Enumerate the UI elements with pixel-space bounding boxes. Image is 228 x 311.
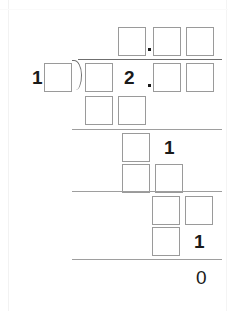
quotient-box-3[interactable] <box>186 27 214 56</box>
quotient-box-1[interactable] <box>118 27 146 56</box>
work-row-4-box-2[interactable] <box>185 196 213 225</box>
dividend-box-1[interactable] <box>85 63 113 92</box>
page-edge-left <box>8 0 9 311</box>
work-row-4-box-1[interactable] <box>152 196 180 225</box>
work-row-5-box-1[interactable] <box>152 227 180 256</box>
work-row-5-digit: 1 <box>194 232 205 251</box>
worksheet-page: 1 2 1 1 0 <box>0 0 228 311</box>
work-row-3-box-1[interactable] <box>122 164 150 193</box>
work-row-3-box-2[interactable] <box>155 164 183 193</box>
page-edge-top <box>0 9 228 10</box>
subtraction-rule-2 <box>72 191 222 192</box>
subtraction-rule-1 <box>72 129 222 130</box>
dividend-decimal-point <box>148 84 151 87</box>
divisor-digit: 1 <box>32 68 43 87</box>
division-bracket-curve <box>72 60 82 90</box>
dividend-box-3[interactable] <box>186 63 214 92</box>
work-row-2-box-1[interactable] <box>122 133 150 162</box>
dividend-box-2[interactable] <box>153 63 181 92</box>
final-remainder-digit: 0 <box>196 268 207 287</box>
page-edge-right <box>226 0 227 311</box>
work-row-2-digit: 1 <box>164 138 175 157</box>
divisor-box[interactable] <box>44 63 72 92</box>
division-vinculum <box>78 59 222 60</box>
work-row-1-box-2[interactable] <box>118 96 146 125</box>
quotient-decimal-point <box>148 48 151 51</box>
work-row-1-box-1[interactable] <box>85 96 113 125</box>
subtraction-rule-3 <box>72 259 222 260</box>
quotient-box-2[interactable] <box>153 27 181 56</box>
dividend-digit: 2 <box>124 68 135 87</box>
